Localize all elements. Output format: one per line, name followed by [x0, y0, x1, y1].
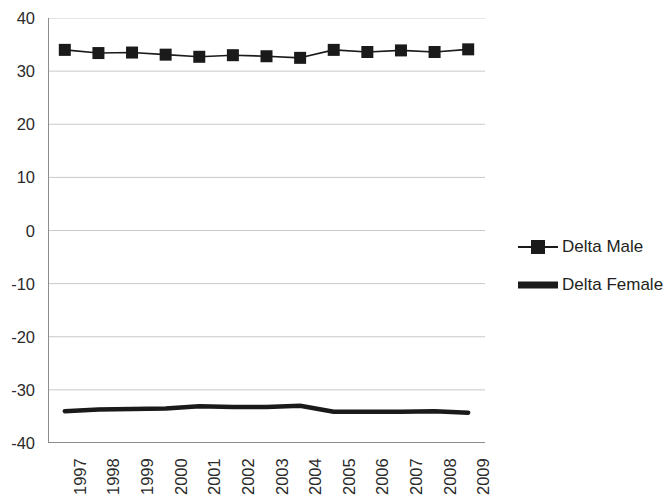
y-tick-label: -40: [0, 435, 35, 452]
data-point-marker: [294, 52, 306, 64]
y-tick-label: 10: [0, 169, 35, 186]
x-tick-label: 2000: [173, 461, 190, 495]
data-point-marker: [92, 47, 104, 59]
y-tick-label: 0: [0, 223, 35, 240]
y-tick-label: -30: [0, 382, 35, 399]
x-axis: 1997199819992000200120022003200420052006…: [48, 447, 485, 498]
x-tick-label: 1997: [72, 461, 89, 495]
y-tick-label: 30: [0, 63, 35, 80]
x-tick-label: 2006: [374, 461, 391, 495]
legend-item-delta-female: Delta Female: [518, 274, 666, 312]
x-tick-label: 2008: [442, 461, 459, 495]
data-point-marker: [126, 47, 138, 59]
y-tick-label: -10: [0, 276, 35, 293]
line-chart: 403020100-10-20-30-40 199719981999200020…: [0, 0, 666, 498]
legend-item-delta-male: Delta Male: [518, 236, 666, 274]
legend-label-delta-female: Delta Female: [562, 275, 663, 295]
data-point-marker: [429, 46, 441, 58]
series-line-1: [65, 406, 468, 413]
data-point-marker: [193, 51, 205, 63]
x-tick-label: 1999: [139, 461, 156, 495]
y-tick-label: 20: [0, 116, 35, 133]
y-axis: 403020100-10-20-30-40: [0, 0, 48, 498]
x-tick-label: 2009: [475, 461, 492, 495]
plot-svg: [48, 18, 485, 443]
x-tick-label: 2002: [240, 461, 257, 495]
x-tick-label: 2007: [408, 461, 425, 495]
x-tick-label: 2004: [307, 461, 324, 495]
data-point-marker: [462, 43, 474, 55]
chart-legend: Delta Male Delta Female: [518, 236, 666, 312]
data-point-marker: [261, 50, 273, 62]
data-point-marker: [59, 44, 71, 56]
data-point-marker: [361, 46, 373, 58]
legend-key-line-with-square-marker: [518, 236, 558, 258]
x-tick-label: 2005: [341, 461, 358, 495]
legend-label-delta-male: Delta Male: [562, 237, 643, 257]
y-tick-label: 40: [0, 10, 35, 27]
legend-key-thick-line: [518, 274, 558, 296]
x-tick-label: 1998: [105, 461, 122, 495]
data-point-marker: [395, 44, 407, 56]
x-tick-label: 2003: [274, 461, 291, 495]
data-point-marker: [160, 49, 172, 61]
data-point-marker: [328, 44, 340, 56]
data-point-marker: [227, 49, 239, 61]
y-tick-label: -20: [0, 329, 35, 346]
x-tick-label: 2001: [206, 461, 223, 495]
plot-area: [48, 18, 485, 443]
